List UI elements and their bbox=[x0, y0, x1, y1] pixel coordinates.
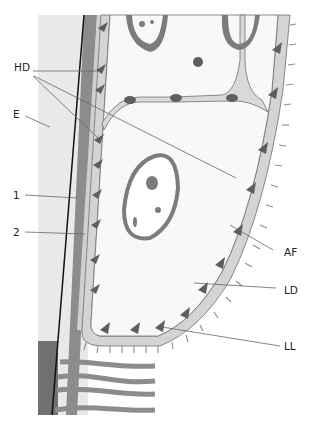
label-af: AF bbox=[284, 247, 297, 258]
label-ld: LD bbox=[284, 285, 298, 296]
diagram-figure: HD E 1 2 AF LD LL bbox=[0, 0, 311, 429]
label-ll: LL bbox=[284, 341, 296, 352]
label-e: E bbox=[13, 109, 20, 120]
label-hd: HD bbox=[14, 62, 30, 73]
basal-cell-area bbox=[91, 15, 278, 336]
label-1: 1 bbox=[13, 190, 20, 201]
label-2: 2 bbox=[13, 227, 20, 238]
diagram-svg bbox=[0, 0, 311, 429]
